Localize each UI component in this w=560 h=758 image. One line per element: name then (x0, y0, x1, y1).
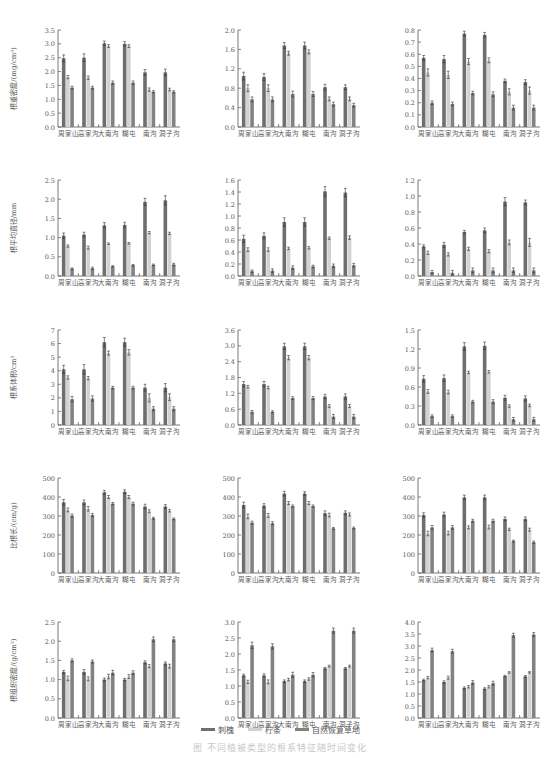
bar (483, 346, 487, 425)
bar (532, 634, 536, 718)
bar (422, 515, 426, 573)
bar (532, 108, 536, 127)
bar (442, 682, 446, 718)
y-tick-label: 0.2 (405, 99, 415, 107)
bar (327, 515, 331, 573)
bar (283, 681, 287, 718)
y-tick-label: 2.0 (405, 667, 415, 675)
x-tick-label: 大南沟 (458, 427, 479, 436)
y-tick-label: 3.0 (225, 342, 235, 350)
bar (487, 687, 491, 718)
y-tick-label: 7 (51, 327, 55, 335)
x-tick-label: 南沟 (503, 129, 517, 138)
bar (323, 87, 327, 127)
x-tick-label: 南沟 (323, 427, 337, 436)
bar (524, 398, 528, 425)
y-axis-label: 根系体积/cm³ (9, 355, 18, 399)
bar (430, 527, 434, 573)
y-tick-label: 1.5 (405, 327, 415, 335)
y-axis-label: 比根长/(cm/g) (9, 502, 18, 548)
y-tick-label: 0.3 (405, 403, 415, 411)
y-tick-label: 3 (51, 381, 55, 389)
y-tick-label: 1.2 (225, 201, 235, 209)
y-tick-label: 2.5 (45, 54, 55, 62)
bar (283, 222, 287, 276)
bar (250, 523, 254, 573)
bar (164, 388, 168, 425)
bar (152, 92, 156, 127)
bar (66, 510, 70, 573)
bar (111, 673, 115, 718)
bar (86, 378, 90, 425)
bar (344, 668, 348, 718)
y-tick-label: 200 (403, 532, 415, 540)
x-tick-label: 洞子沟 (519, 129, 540, 138)
x-tick-label: 高家沟 (78, 575, 99, 584)
y-tick-label: 3.5 (45, 27, 55, 35)
bar (524, 82, 528, 127)
x-tick-label: 南沟 (503, 278, 517, 287)
bar (164, 72, 168, 127)
bar (70, 516, 74, 573)
y-tick-label: 1.0 (225, 683, 235, 691)
y-tick-label: 3.0 (225, 619, 235, 627)
chart-panel-6: 01234567周家山高家沟大南沟糊屯南沟洞子沟根系体积/cm³ (9, 327, 180, 437)
bar (323, 513, 327, 573)
bar (467, 249, 471, 276)
bar (471, 402, 475, 425)
y-tick-label: 1.6 (225, 46, 235, 54)
bar (463, 497, 467, 573)
y-tick-label: 0.5 (45, 253, 55, 261)
bar (123, 680, 127, 718)
bar (246, 387, 250, 425)
y-tick-label: 0 (51, 422, 55, 430)
bar (246, 682, 250, 718)
bar (168, 511, 172, 573)
bar (291, 675, 295, 718)
y-tick-label: 1.6 (225, 177, 235, 185)
x-tick-label: 糊屯 (302, 575, 316, 584)
y-tick-label: 1.5 (45, 215, 55, 223)
x-tick-label: 糊屯 (482, 129, 496, 138)
x-tick-label: 大南沟 (98, 575, 119, 584)
bar (242, 384, 246, 425)
bar (111, 266, 115, 276)
bar (487, 527, 491, 573)
x-tick-label: 大南沟 (98, 129, 119, 138)
bar (82, 502, 86, 573)
bar (131, 673, 135, 718)
bar (266, 88, 270, 127)
x-tick-label: 南沟 (323, 575, 337, 584)
y-tick-label: 1.5 (405, 679, 415, 687)
bar (483, 497, 487, 573)
chart-panel-0: 0.00.51.01.52.02.53.03.5周家山高家沟大南沟糊屯南沟洞子沟… (9, 27, 180, 139)
y-tick-label: 400 (43, 494, 55, 502)
bar (422, 246, 426, 276)
bar (344, 513, 348, 573)
bar (152, 518, 156, 573)
bar (348, 238, 352, 276)
bar (303, 494, 307, 573)
x-tick-label: 周家山 (418, 129, 439, 138)
bar (491, 521, 495, 573)
y-tick-label: 500 (223, 475, 235, 483)
bar (303, 46, 307, 127)
bar (348, 99, 352, 127)
y-tick-label: 1.0 (405, 193, 415, 201)
x-tick-label: 高家沟 (258, 129, 279, 138)
bar (266, 682, 270, 718)
bar (66, 77, 70, 127)
y-tick-label: 3.5 (405, 631, 415, 639)
bar (307, 248, 311, 276)
bar (86, 78, 90, 127)
bar (491, 683, 495, 718)
y-tick-label: 2.5 (405, 655, 415, 663)
bar (250, 99, 254, 127)
bar (348, 514, 352, 573)
bar (327, 99, 331, 127)
bar (147, 90, 151, 127)
x-tick-label: 高家沟 (258, 575, 279, 584)
bar (283, 46, 287, 127)
bar (172, 92, 176, 127)
bar (111, 504, 115, 573)
